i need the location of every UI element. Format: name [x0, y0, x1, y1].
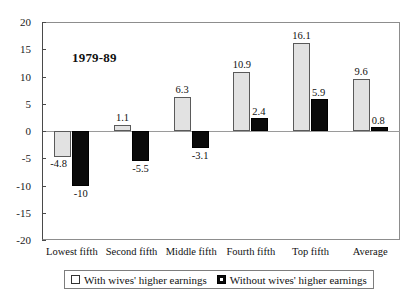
bar[interactable]	[311, 99, 328, 131]
bar-value-label: -3.1	[192, 150, 209, 161]
scan-artifact	[0, 0, 419, 8]
y-tick-label: -20	[16, 235, 31, 246]
bar-value-label: -4.8	[50, 158, 67, 169]
bar-value-label: 6.3	[176, 84, 189, 95]
bar-group: 16.15.9	[293, 22, 328, 240]
bar-value-label: -10	[74, 188, 88, 199]
y-tick-mark	[42, 104, 46, 105]
bar-value-label: -5.5	[132, 163, 149, 174]
bar-value-label: 10.9	[233, 59, 251, 70]
x-axis-category-label: Top fifth	[292, 246, 329, 258]
bar[interactable]	[353, 79, 370, 131]
legend-swatch-icon	[71, 275, 80, 284]
period-annotation: 1979-89	[72, 50, 117, 66]
x-axis-category-label: Second fifth	[106, 246, 158, 258]
bar-value-label: 16.1	[292, 30, 310, 41]
bar[interactable]	[132, 131, 149, 161]
bar-value-label: 1.1	[116, 112, 129, 123]
bar-group: 9.60.8	[353, 22, 388, 240]
legend-label: With wives' higher earnings	[84, 274, 207, 286]
legend-swatch-icon	[217, 275, 226, 284]
x-axis-category-label: Lowest fifth	[46, 246, 98, 258]
y-tick-mark	[42, 22, 46, 23]
bar[interactable]	[174, 97, 191, 131]
y-tick-label: -10	[16, 180, 31, 191]
bar-value-label: 2.4	[252, 106, 265, 117]
bar-group: 10.92.4	[233, 22, 268, 240]
y-tick-label: -5	[22, 153, 31, 164]
y-tick-label: 5	[26, 98, 32, 109]
bar-group: 6.3-3.1	[174, 22, 209, 240]
x-axis-category-label: Average	[353, 246, 388, 258]
bar-chart-figure: 20151050-5-10-15-20 -4.8-101.1-5.56.3-3.…	[0, 0, 419, 294]
bar[interactable]	[233, 72, 250, 131]
y-axis: 20151050-5-10-15-20	[0, 22, 36, 240]
y-tick-label: 15	[20, 44, 31, 55]
y-tick-mark	[42, 131, 46, 132]
bar[interactable]	[371, 127, 388, 131]
bar[interactable]	[192, 131, 209, 148]
y-tick-label: 0	[26, 126, 32, 137]
chart-legend: With wives' higher earningsWithout wives…	[64, 270, 374, 289]
y-tick-label: -15	[16, 207, 31, 218]
y-tick-mark	[42, 186, 46, 187]
bar[interactable]	[293, 43, 310, 131]
x-axis-category-labels: Lowest fifthSecond fifthMiddle fifthFour…	[42, 246, 400, 262]
bar-group: 1.1-5.5	[114, 22, 149, 240]
y-tick-label: 20	[20, 17, 31, 28]
y-tick-mark	[42, 158, 46, 159]
y-tick-mark	[42, 49, 46, 50]
y-tick-mark	[42, 240, 46, 241]
x-axis-category-label: Fourth fifth	[226, 246, 275, 258]
bar[interactable]	[114, 125, 131, 131]
bar-value-label: 0.8	[372, 115, 385, 126]
x-axis-category-label: Middle fifth	[166, 246, 217, 258]
bar-value-label: 9.6	[355, 66, 368, 77]
bar[interactable]	[72, 131, 89, 186]
bar[interactable]	[251, 118, 268, 131]
legend-entry[interactable]: With wives' higher earnings	[71, 274, 207, 286]
bar-value-label: 5.9	[312, 87, 325, 98]
legend-label: Without wives' higher earnings	[230, 274, 367, 286]
y-tick-mark	[42, 213, 46, 214]
y-tick-mark	[42, 77, 46, 78]
bar[interactable]	[54, 131, 71, 157]
y-tick-label: 10	[20, 71, 31, 82]
legend-entry[interactable]: Without wives' higher earnings	[217, 274, 367, 286]
